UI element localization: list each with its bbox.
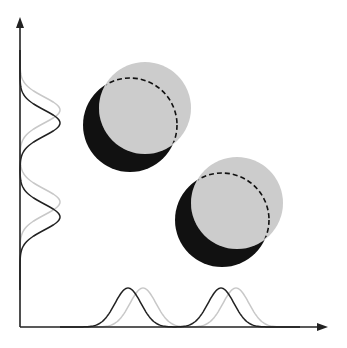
y-axis-arrow-icon — [16, 17, 24, 28]
circle-pairs — [83, 62, 283, 267]
diagram-canvas — [0, 0, 347, 348]
x-marginal-gray — [60, 288, 300, 327]
x-axis-arrow-icon — [317, 323, 328, 331]
y-marginal-black — [20, 50, 60, 290]
x-marginal-black — [60, 288, 300, 327]
axes — [16, 17, 328, 331]
diagram-svg — [0, 0, 347, 348]
circle-pair — [175, 157, 283, 267]
circle-pair — [83, 62, 191, 172]
y-marginal-gray — [20, 50, 60, 290]
